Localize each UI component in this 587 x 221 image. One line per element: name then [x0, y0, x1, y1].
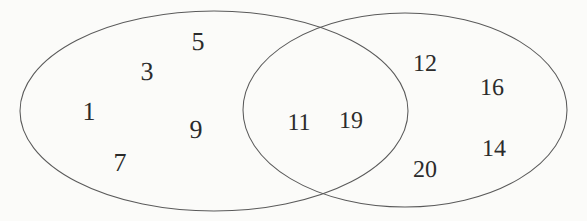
set-element-20: 20	[413, 158, 437, 182]
set-element-9: 9	[190, 117, 203, 143]
set-element-11: 11	[287, 111, 310, 135]
set-element-19: 19	[339, 109, 363, 133]
set-element-3: 3	[141, 59, 154, 85]
set-element-7: 7	[114, 150, 127, 176]
set-element-12: 12	[413, 52, 437, 76]
set-element-5: 5	[192, 29, 205, 55]
set-element-1: 1	[83, 99, 96, 125]
set-element-16: 16	[480, 76, 504, 100]
set-element-14: 14	[482, 137, 506, 161]
venn-diagram: 5 3 1 9 7 11 19 12 16 20 14	[0, 0, 587, 221]
